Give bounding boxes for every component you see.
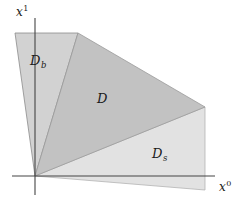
region-label-db-subscript: b <box>41 60 46 70</box>
diagram-canvas <box>0 0 242 206</box>
y-axis-label-text: x <box>16 5 23 19</box>
region-label-db-text: D <box>30 53 40 68</box>
region-label-d-text: D <box>97 91 107 106</box>
region-label-ds: Ds <box>152 147 167 160</box>
region-label-ds-text: D <box>152 146 162 161</box>
x-axis-label-text: x <box>219 180 226 194</box>
x-axis-label-exponent: 0 <box>226 179 231 188</box>
region-label-ds-subscript: s <box>163 153 167 163</box>
y-axis-label-exponent: 1 <box>23 4 28 13</box>
region-label-d: D <box>97 92 107 105</box>
cone-diagram-figure: Db D Ds x1 x0 <box>0 0 242 206</box>
region-label-db: Db <box>30 54 46 67</box>
x-axis-label: x0 <box>219 181 231 193</box>
y-axis-label: x1 <box>16 6 28 18</box>
